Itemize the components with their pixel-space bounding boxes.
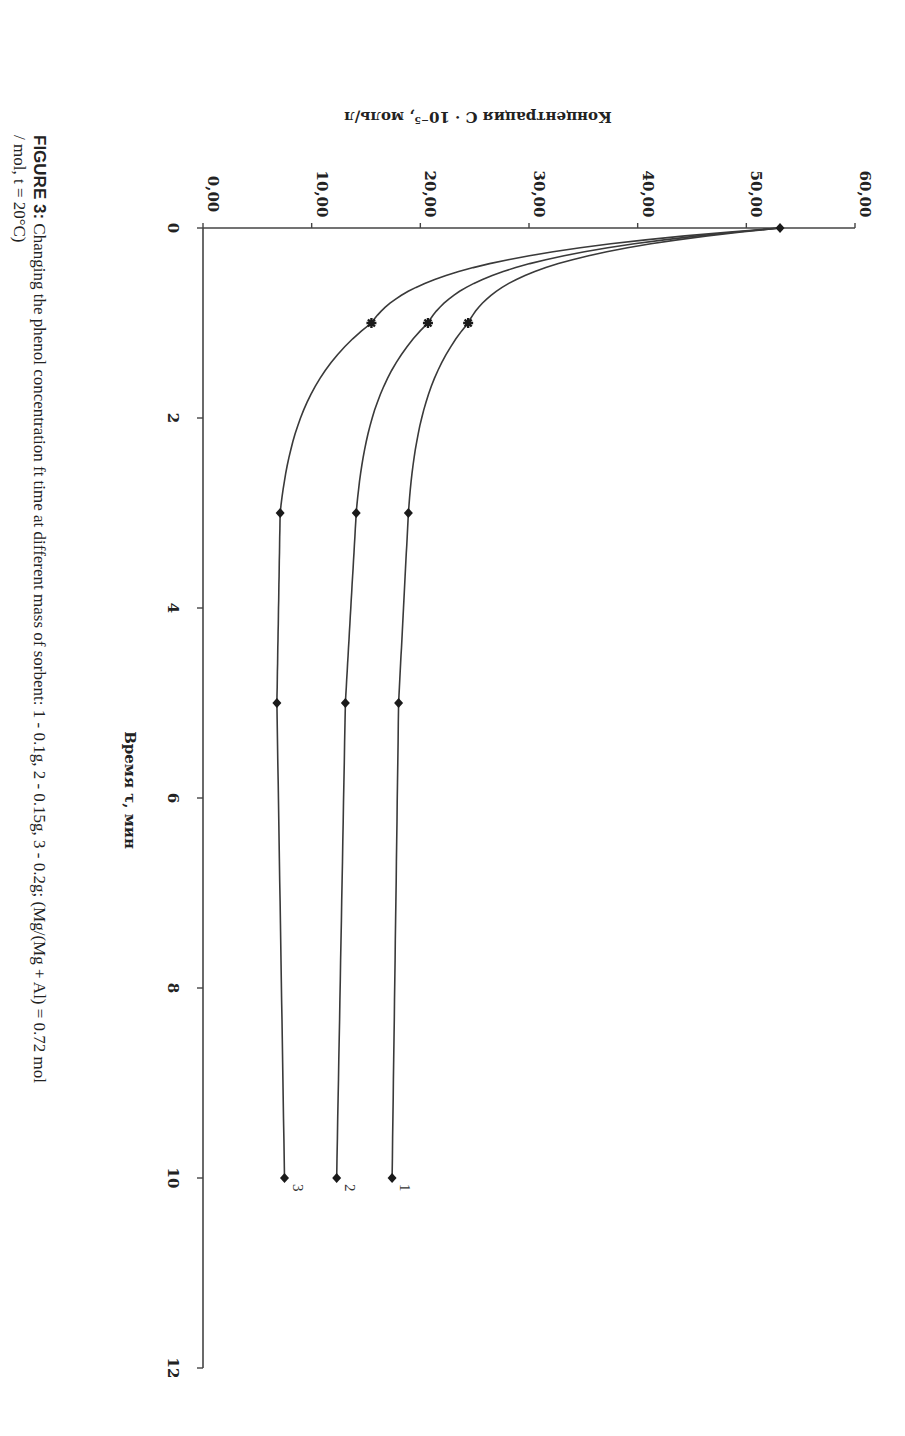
- chart-axes: [203, 228, 855, 1368]
- y-tick-label: 40,00: [639, 171, 657, 218]
- figure-caption: FIGURE 3: Changing the phenol concentrat…: [30, 135, 49, 1083]
- data-series: [277, 228, 780, 1178]
- y-axis-title: Концентрация C · 10⁻⁵, моль/л: [344, 108, 612, 126]
- series-label-2: 2: [342, 1184, 358, 1192]
- series-label-3: 3: [290, 1184, 306, 1192]
- diamond-marker: [352, 508, 361, 518]
- figure-caption-line2: / mol, t = 20°C): [10, 135, 29, 243]
- series-line-2: [337, 228, 780, 1178]
- star-marker: [463, 318, 473, 328]
- caption-label: FIGURE 3:: [30, 135, 49, 219]
- series-labels: 123: [290, 1184, 414, 1192]
- diamond-marker: [404, 508, 413, 518]
- series-label-1: 1: [397, 1184, 413, 1192]
- chart: 0,0010,0020,0030,0040,0050,0060,00024681…: [0, 0, 905, 1436]
- axis-ticks: 0,0010,0020,0030,0040,0050,0060,00024681…: [164, 171, 874, 1379]
- y-tick-label: 50,00: [747, 171, 765, 218]
- caption-text: Changing the phenol concentration ft tim…: [30, 219, 49, 1083]
- diamond-marker: [272, 698, 281, 708]
- x-tick-label: 6: [164, 793, 182, 803]
- diamond-marker: [394, 698, 403, 708]
- star-marker: [423, 318, 433, 328]
- x-axis-title: Время τ, мин: [121, 731, 139, 849]
- diamond-marker: [341, 698, 350, 708]
- x-tick-label: 10: [164, 1168, 182, 1189]
- series-line-3: [277, 228, 780, 1178]
- diamond-marker: [280, 1173, 289, 1183]
- x-tick-label: 8: [164, 983, 182, 993]
- y-tick-label: 0,00: [204, 176, 222, 213]
- diamond-marker: [276, 508, 285, 518]
- diamond-marker: [776, 223, 785, 233]
- diamond-marker: [332, 1173, 341, 1183]
- x-tick-label: 4: [164, 603, 182, 613]
- x-tick-label: 2: [164, 413, 182, 423]
- star-marker: [366, 318, 376, 328]
- x-tick-label: 0: [164, 223, 182, 233]
- x-tick-label: 12: [164, 1358, 182, 1379]
- series-line-1: [392, 228, 780, 1178]
- y-tick-label: 10,00: [313, 171, 331, 218]
- diamond-marker: [388, 1173, 397, 1183]
- y-tick-label: 30,00: [530, 171, 548, 218]
- y-tick-label: 20,00: [421, 171, 439, 218]
- data-markers: [272, 223, 784, 1183]
- y-tick-label: 60,00: [856, 171, 874, 218]
